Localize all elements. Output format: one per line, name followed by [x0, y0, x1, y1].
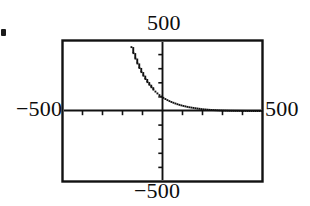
curve-segment — [148, 82, 150, 85]
curve-segment — [159, 94, 161, 96]
curve-segment — [203, 108, 205, 110]
curve-segment — [161, 96, 163, 98]
curve-segment — [136, 59, 138, 64]
curve-segment — [183, 105, 185, 107]
curve-segment — [197, 108, 199, 110]
curve-segment — [150, 85, 152, 87]
curve-segment — [185, 105, 187, 107]
curve-segment — [251, 110, 253, 112]
curve-segment — [175, 103, 177, 105]
curve-segment — [231, 110, 233, 112]
curve-segment — [140, 68, 142, 72]
curve-segment — [152, 87, 154, 89]
curve-segment — [255, 110, 257, 112]
curve-segment — [205, 109, 207, 111]
curve-segment — [171, 101, 173, 103]
curve-segment — [259, 110, 261, 112]
curve-segment — [146, 79, 148, 82]
curve-segment — [179, 104, 181, 106]
curve-segment — [193, 107, 195, 109]
curve-segment — [134, 53, 136, 58]
curve-segment — [239, 110, 241, 112]
curve-segment — [155, 91, 157, 93]
curve-segment — [235, 110, 237, 112]
curve-segment — [249, 110, 251, 112]
curve-segment — [211, 109, 213, 111]
curve-segment — [173, 102, 175, 104]
curve-segment — [157, 92, 159, 94]
curve-segment — [181, 104, 183, 106]
curve-segment — [187, 106, 189, 108]
curve-segment — [253, 110, 255, 112]
curve-segment — [245, 110, 247, 112]
curve-segment — [261, 110, 263, 112]
curve-segment — [177, 103, 179, 105]
plot-canvas — [0, 0, 310, 206]
curve-segment — [195, 107, 197, 109]
curve-segment — [257, 110, 259, 112]
curve-segment — [227, 110, 229, 112]
graph-figure: 500 −500 −500 500 — [0, 0, 310, 206]
curve-segment — [215, 109, 217, 111]
curve-segment — [247, 110, 249, 112]
curve-segment — [163, 97, 165, 99]
curve-segment — [132, 47, 134, 53]
curve-segment — [225, 110, 227, 112]
curve-segment — [233, 110, 235, 112]
curve-segment — [221, 110, 223, 112]
curve-segment — [189, 106, 191, 108]
curve-segment — [142, 72, 144, 76]
curve-segment — [237, 110, 239, 112]
curve-segment — [217, 109, 219, 111]
data-curve-exponential-decay — [131, 46, 263, 112]
curve-segment — [219, 109, 221, 111]
curve-segment — [169, 100, 171, 102]
curve-segment — [199, 108, 201, 110]
curve-segment — [209, 109, 211, 111]
curve-segment — [201, 108, 203, 110]
curve-segment — [144, 76, 146, 79]
curve-segment — [165, 98, 167, 100]
curve-segment — [167, 99, 169, 101]
curve-segment — [243, 110, 245, 112]
curve-segment — [241, 110, 243, 112]
curve-segment — [213, 109, 215, 111]
curve-segment — [207, 109, 209, 111]
curve-segment — [223, 110, 225, 112]
curve-segment — [138, 63, 140, 68]
curve-segment — [131, 46, 133, 48]
curve-segment — [229, 110, 231, 112]
curve-segment — [191, 107, 193, 109]
